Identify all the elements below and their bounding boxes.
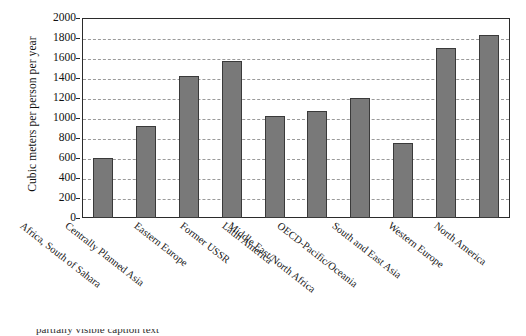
bar xyxy=(179,76,199,218)
y-tick-mark xyxy=(76,158,80,159)
bar xyxy=(136,126,156,218)
bar xyxy=(479,35,499,218)
bottom-caption: partially visible caption text xyxy=(36,329,436,336)
y-tick-label: 1200 xyxy=(30,92,76,103)
y-tick-label: 600 xyxy=(30,152,76,163)
y-tick-label: 2000 xyxy=(30,12,76,23)
bar xyxy=(307,111,327,218)
bar xyxy=(393,143,413,218)
y-tick-mark xyxy=(76,198,80,199)
y-tick-mark xyxy=(76,118,80,119)
y-tick-label: 800 xyxy=(30,132,76,143)
y-tick-mark xyxy=(76,98,80,99)
bar xyxy=(265,116,285,218)
y-tick-mark xyxy=(76,138,80,139)
bottom-caption-text: partially visible caption text xyxy=(36,329,436,336)
y-tick-mark xyxy=(76,78,80,79)
bar xyxy=(222,61,242,218)
bar-chart-figure: Cubic meters per person per year 0200400… xyxy=(0,0,526,336)
y-tick-mark xyxy=(76,38,80,39)
bar xyxy=(350,98,370,218)
x-tick-label: Middle East/North Africa xyxy=(226,220,317,295)
bar xyxy=(436,48,456,218)
y-tick-label: 1600 xyxy=(30,52,76,63)
bar xyxy=(93,158,113,218)
x-axis-tick-labels: Africa, South of SaharaCentrally Planned… xyxy=(0,218,526,318)
x-tick-label: Africa, South of Sahara xyxy=(19,220,104,290)
y-tick-label: 200 xyxy=(30,192,76,203)
y-tick-mark xyxy=(76,18,80,19)
y-tick-label: 400 xyxy=(30,172,76,183)
bars-container xyxy=(82,18,510,218)
y-tick-mark xyxy=(76,178,80,179)
y-tick-mark xyxy=(76,58,80,59)
y-axis-tick-labels: 0200400600800100012001400160018002000 xyxy=(24,18,76,218)
y-tick-label: 1400 xyxy=(30,72,76,83)
y-tick-label: 1800 xyxy=(30,32,76,43)
y-tick-label: 1000 xyxy=(30,112,76,123)
